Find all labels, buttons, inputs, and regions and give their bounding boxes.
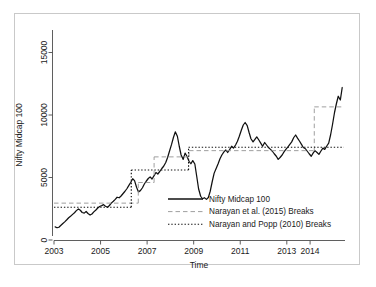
x-tick-label: 2014 [301, 246, 320, 256]
y-tick-label: 15000 [39, 40, 49, 64]
x-tick-label: 2009 [184, 246, 203, 256]
x-tick-label: 2011 [231, 246, 250, 256]
chart-plot-area: 2003200520072009201120132014 05000100001… [0, 0, 376, 287]
x-tick-label: 2003 [45, 246, 64, 256]
y-axis-ticks: 050001000015000 [39, 40, 53, 242]
y-tick-label: 5000 [39, 168, 49, 187]
x-axis-title: Time [190, 260, 209, 270]
legend-item-label: Narayan et al. (2015) Breaks [209, 207, 314, 216]
y-axis-title: Nifty Midcap 100 [14, 103, 24, 167]
y-tick-label: 10000 [39, 103, 49, 127]
legend-item-label: Nifty Midcap 100 [209, 195, 270, 204]
x-axis-ticks: 2003200520072009201120132014 [45, 241, 320, 257]
x-tick-label: 2013 [277, 246, 296, 256]
chart-legend: Nifty Midcap 100Narayan et al. (2015) Br… [168, 195, 331, 229]
chart-figure: 2003200520072009201120132014 05000100001… [0, 0, 376, 287]
x-tick-label: 2007 [138, 246, 157, 256]
legend-item-label: Narayan and Popp (2010) Breaks [209, 220, 331, 229]
x-tick-label: 2005 [91, 246, 110, 256]
y-tick-label: 0 [39, 237, 49, 242]
